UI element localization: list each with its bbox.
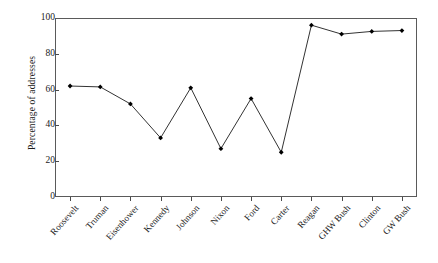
x-axis-tick-mark: [221, 197, 222, 201]
y-axis-tick-label: 20: [27, 156, 55, 166]
x-axis-tick-mark: [161, 197, 162, 201]
x-axis-tick-label-text: Kennedy: [142, 203, 172, 234]
x-axis-tick-mark: [311, 197, 312, 201]
y-axis-tick-mark: [55, 161, 59, 162]
x-axis-tick-label-text: Clinton: [357, 203, 383, 230]
y-axis-tick-mark: [55, 125, 59, 126]
plot-area: [55, 18, 417, 197]
x-axis-tick-mark: [70, 197, 71, 201]
x-axis-tick-mark: [251, 197, 252, 201]
x-axis-tick-label-text: Johnson: [174, 203, 202, 232]
x-axis-tick-label-text: Ford: [242, 203, 261, 223]
x-axis-tick-mark: [191, 197, 192, 201]
y-axis-tick-label: 60: [27, 85, 55, 95]
x-axis-tick-label-text: GW Bush: [381, 203, 413, 237]
x-axis-tick-label-text: Carter: [269, 203, 292, 227]
x-axis-tick-label-text: Nixon: [209, 203, 232, 227]
x-axis-tick-mark: [402, 197, 403, 201]
x-axis-tick-mark: [130, 197, 131, 201]
y-axis-tick-mark: [55, 90, 59, 91]
y-axis-tick-mark: [55, 54, 59, 55]
x-axis-tick-mark: [281, 197, 282, 201]
x-axis-tick-label-text: Truman: [84, 203, 111, 231]
x-axis-tick-mark: [100, 197, 101, 201]
x-axis-tick-label-text: Reagan: [296, 203, 322, 230]
x-axis-tick-mark: [372, 197, 373, 201]
y-axis-tick-label: 40: [27, 120, 55, 130]
y-axis-tick-label: 80: [27, 49, 55, 59]
line-chart: Percentage of addresses 100806040200 Roo…: [0, 0, 438, 263]
y-axis-tick-labels: 100806040200: [20, 0, 55, 263]
x-axis-tick-mark: [342, 197, 343, 201]
y-axis-tick-label: 100: [27, 13, 55, 23]
y-axis-tick-label: 0: [27, 192, 55, 202]
